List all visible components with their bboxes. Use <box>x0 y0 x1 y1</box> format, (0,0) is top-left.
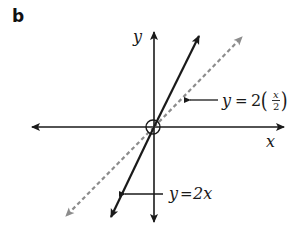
y-axis-label: y <box>132 27 143 46</box>
svg-text:2x: 2x <box>192 184 212 203</box>
svg-text:(: ( <box>261 88 268 113</box>
coordinate-diagram: y x y = 2 ( x 2 ) y = 2x <box>0 0 301 241</box>
x-axis-label: x <box>266 132 275 151</box>
svg-text:y: y <box>221 91 232 110</box>
label-dashed-line: y = 2 ( x 2 ) <box>221 88 288 113</box>
svg-text:=: = <box>180 185 193 203</box>
svg-text:x: x <box>273 89 279 100</box>
svg-text:y: y <box>168 184 179 203</box>
svg-text:2: 2 <box>251 91 261 110</box>
svg-text:=: = <box>235 92 248 110</box>
svg-text:): ) <box>281 88 288 113</box>
svg-text:2: 2 <box>273 101 279 112</box>
label-solid-line: y = 2x <box>168 184 212 203</box>
